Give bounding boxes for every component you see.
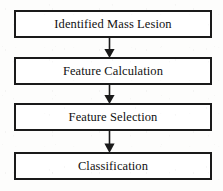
flowchart-node-feature-selection[interactable]: Feature Selection xyxy=(14,103,212,131)
node-label: Feature Selection xyxy=(69,111,158,124)
flowchart-node-classification[interactable]: Classification xyxy=(14,152,212,180)
node-label: Feature Calculation xyxy=(63,65,163,78)
node-label: Identified Mass Lesion xyxy=(54,18,171,31)
down-arrow-icon xyxy=(101,130,118,153)
down-arrow-icon xyxy=(101,37,118,58)
flowchart-node-feature-calculation[interactable]: Feature Calculation xyxy=(14,57,212,85)
down-arrow-icon xyxy=(101,84,118,104)
flowchart-node-identified-mass-lesion[interactable]: Identified Mass Lesion xyxy=(14,10,212,38)
flowchart-canvas: Identified Mass Lesion Feature Calculati… xyxy=(0,0,223,191)
node-label: Classification xyxy=(78,160,148,173)
